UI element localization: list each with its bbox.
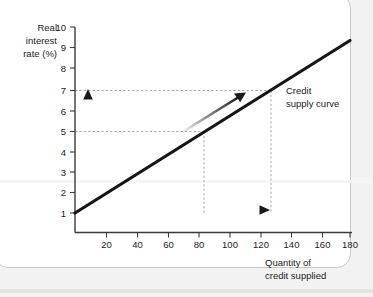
x-axis-ticks [107,233,351,238]
x-tick-label-20: 20 [101,239,112,250]
y-axis-ticks [70,27,75,213]
x-axis-title: Quantity of credit supplied [265,257,326,281]
curve-label-line-2: supply curve [286,98,339,109]
x-tick-label-60: 60 [163,239,174,250]
y-tick-label-7: 7 [61,85,66,96]
x-tick-label-100: 100 [222,239,238,250]
x-tick-label-160: 160 [315,239,331,250]
y-axis-title-line-3: rate (%) [23,48,57,59]
credit-supply-curve [75,41,350,214]
y-tick-label-1: 1 [61,208,66,219]
axes [75,27,352,233]
y-tick-label-3: 3 [61,167,66,178]
y-axis-title-line-1: Real [37,22,57,33]
x-tick-label-80: 80 [194,239,205,250]
y-tick-label-4: 4 [61,147,66,158]
chart-svg: 10 9 8 7 6 5 4 3 2 1 [0,0,373,297]
curve-label-line-1: Credit [286,85,312,96]
credit-supply-chart: 10 9 8 7 6 5 4 3 2 1 [0,0,373,297]
x-tick-label-120: 120 [253,239,269,250]
x-axis-tick-labels: 20 40 60 80 100 120 140 160 180 [101,239,358,250]
y-axis-title: Real interest rate (%) [23,22,57,59]
x-axis-title-line-2: credit supplied [265,270,326,281]
y-tick-label-10: 10 [55,22,66,33]
rate-increase-arrow [83,89,93,131]
y-tick-label-9: 9 [61,42,66,53]
x-tick-label-40: 40 [132,239,143,250]
quantity-increase-arrow [207,205,270,215]
y-tick-label-2: 2 [61,187,66,198]
y-axis-tick-labels: 10 9 8 7 6 5 4 3 2 1 [55,22,66,219]
y-tick-label-8: 8 [61,63,66,74]
y-axis-title-line-2: interest [26,35,58,46]
curve-label: Credit supply curve [286,85,339,109]
page-background: 10 9 8 7 6 5 4 3 2 1 [0,0,373,297]
y-tick-label-6: 6 [61,106,66,117]
x-tick-label-180: 180 [342,239,358,250]
y-tick-label-5: 5 [61,126,66,137]
x-axis-title-line-1: Quantity of [265,257,311,268]
x-tick-label-140: 140 [284,239,300,250]
